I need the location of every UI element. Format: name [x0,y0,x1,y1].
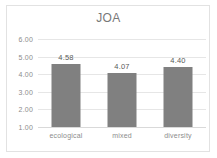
xtick-label-mixed: mixed [94,132,150,139]
ytick-label-1: 1.00 [19,124,33,131]
bar-mixed[interactable] [108,73,137,127]
plot-area: 6.00 5.00 4.00 3.00 2.00 1.00 4.58 4.07 [38,39,206,127]
ytick-label-3: 3.00 [19,88,33,95]
ytick-label-6: 6.00 [19,36,33,43]
gridline-baseline-1: 1.00 [38,127,206,128]
x-axis-labels: ecological mixed diversity [38,132,206,139]
bar-diversity[interactable] [164,67,193,127]
ytick-label-4: 4.00 [19,71,33,78]
bar-value-label-mixed: 4.07 [114,62,129,71]
bar-ecological[interactable] [52,64,81,127]
bar-slot-ecological: 4.58 [38,39,94,127]
bar-series: 4.58 4.07 4.40 [38,39,206,127]
bar-slot-diversity: 4.40 [150,39,206,127]
ytick-label-5: 5.00 [19,53,33,60]
chart-title: JOA [0,11,217,25]
bar-slot-mixed: 4.07 [94,39,150,127]
xtick-label-ecological: ecological [38,132,94,139]
xtick-label-diversity: diversity [150,132,206,139]
ytick-label-2: 2.00 [19,106,33,113]
chart-card: JOA 6.00 5.00 4.00 3.00 2.00 1.00 4.58 4… [0,0,217,158]
bar-value-label-diversity: 4.40 [170,56,185,65]
bar-value-label-ecological: 4.58 [58,53,73,62]
